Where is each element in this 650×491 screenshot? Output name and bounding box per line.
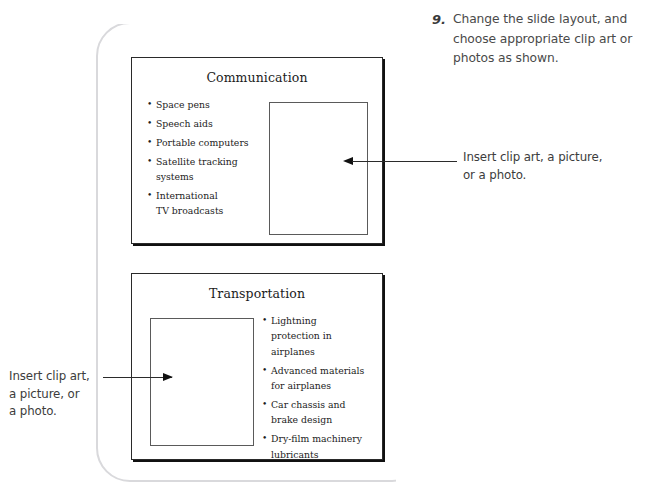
- list-item: Space pens: [147, 97, 259, 112]
- slide-bullet-list: Space pens Speech aids Portable computer…: [147, 97, 259, 222]
- list-item: Portable computers: [147, 135, 259, 150]
- list-item: International TV broadcasts: [147, 188, 259, 219]
- list-item: Advanced materials for airplanes: [262, 363, 374, 394]
- slide-bullet-list: Lightning protection in airplanes Advanc…: [262, 313, 374, 466]
- callout-leader-line: [352, 161, 457, 162]
- slide-title: Transportation: [132, 286, 382, 301]
- slide-transportation[interactable]: Transportation Lightning protection in a…: [131, 273, 383, 460]
- instruction-step: 9. Change the slide layout, and choose a…: [432, 10, 642, 69]
- list-item: Satellite tracking systems: [147, 154, 259, 185]
- step-text: Change the slide layout, and choose appr…: [453, 10, 642, 69]
- picture-placeholder[interactable]: [269, 102, 368, 235]
- list-item: Car chassis and brake design: [262, 397, 374, 428]
- callout-arrow-right-pointing-icon: [163, 373, 173, 381]
- step-number: 9.: [432, 10, 446, 29]
- page-outline-mask-right: [396, 18, 650, 486]
- slide-communication[interactable]: Communication Space pens Speech aids Por…: [131, 57, 383, 244]
- list-item: Speech aids: [147, 116, 259, 131]
- callout-label-left: Insert clip art, a picture, or a photo.: [9, 368, 134, 421]
- picture-placeholder[interactable]: [150, 318, 254, 446]
- list-item: Lightning protection in airplanes: [262, 313, 374, 359]
- callout-label-right: Insert clip art, a picture, or a photo.: [463, 149, 643, 184]
- slide-title: Communication: [132, 70, 382, 85]
- list-item: Dry-film machinery lubricants: [262, 431, 374, 462]
- page-outline-mask-top: [94, 0, 404, 24]
- page-outline-fade: [340, 22, 402, 62]
- callout-leader-line: [103, 377, 172, 378]
- figure-canvas: appropriate clip art Communication Space…: [0, 0, 650, 491]
